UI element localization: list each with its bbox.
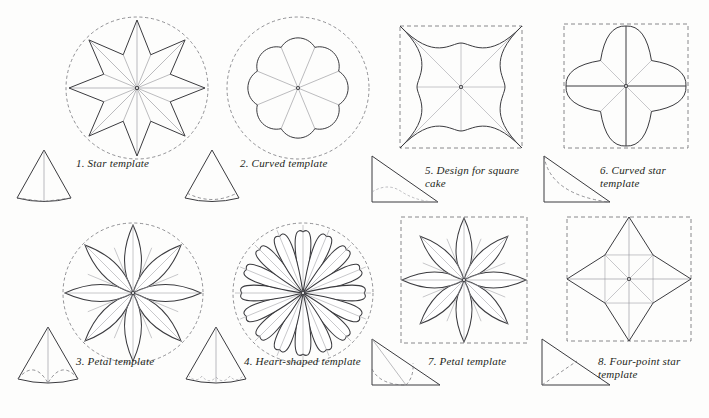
- curved-star-diagram: [560, 20, 692, 152]
- figure-curved-star-template: [560, 20, 692, 152]
- square-cake-diagram: [394, 20, 528, 154]
- figure-star-template: [61, 12, 213, 164]
- figure-curved-template: [222, 12, 374, 164]
- caption-square-cake-design: 5. Design for square cake: [425, 164, 545, 190]
- caption-curved-star-template: 6. Curved star template: [600, 164, 709, 190]
- star-template-diagram: [61, 12, 213, 164]
- petal-square-diagram: [396, 212, 532, 348]
- curved-template-diagram: [222, 12, 374, 164]
- cone-star-diagram: [8, 148, 80, 206]
- four-point-star-diagram: [562, 212, 696, 346]
- caption-four-point-star-template: 8. Four-point star template: [598, 355, 709, 381]
- templates-plate: 1. Star template 2. Curved template 3. P…: [0, 0, 709, 418]
- figure-four-point-star-template: [562, 212, 696, 346]
- cone-star-template: [8, 148, 80, 206]
- cone-curved-diagram: [176, 148, 248, 206]
- caption-petal-template-square: 7. Petal template: [428, 355, 548, 368]
- caption-curved-template: 2. Curved template: [240, 157, 380, 170]
- figure-square-cake-design: [394, 20, 528, 154]
- cone-curved-template: [176, 148, 248, 206]
- figure-petal-template-square: [396, 212, 532, 348]
